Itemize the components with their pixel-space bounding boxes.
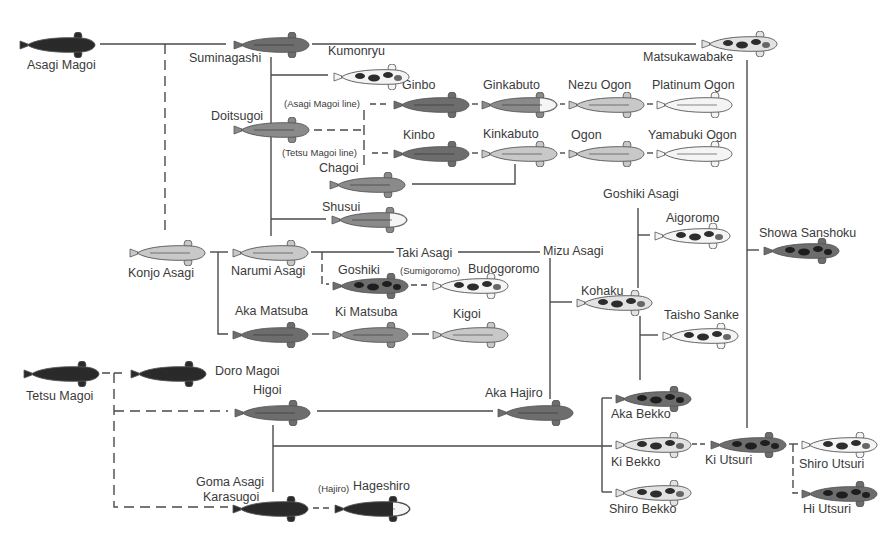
label-higoi: Higoi (253, 383, 282, 397)
doro-magoi-fish-icon (129, 361, 207, 387)
ki-utsuri-fish-icon (709, 432, 787, 458)
goma-asagi-karasugoi-fish-icon (231, 496, 309, 522)
label-kumonryu: Kumonryu (328, 44, 385, 58)
nezu-ogon-fish-icon (567, 92, 645, 118)
kigoi-fish-icon (431, 322, 509, 348)
chagoi-fish-icon (328, 172, 406, 198)
annotation-tetsu-magoi-line: (Tetsu Magoi line) (282, 146, 357, 160)
shiro-bekko-fish-icon (614, 480, 692, 506)
edge-chagoi-kinkabuto (412, 164, 515, 184)
suminagashi-fish-icon (232, 32, 310, 58)
kinbo-fish-icon (392, 141, 470, 167)
koi-lineage-diagram: (Asagi Magoi line) (Tetsu Magoi line) As… (0, 0, 895, 539)
aka-bekko-fish-icon (614, 386, 692, 412)
label-tetsu-magoi: Tetsu Magoi (26, 389, 93, 403)
label-kinbo: Kinbo (403, 128, 435, 142)
label-taisho-sanke: Taisho Sanke (664, 308, 739, 322)
label-konjo-asagi: Konjo Asagi (128, 266, 194, 280)
label-goma-asagi: Goma Asagi (196, 475, 264, 489)
ogon-fish-icon (567, 141, 645, 167)
narumi-asagi-fish-icon (231, 240, 309, 266)
taisho-sanke-fish-icon (661, 323, 739, 349)
label-shiro-utsuri: Shiro Utsuri (799, 457, 864, 471)
label-kigoi: Kigoi (453, 307, 481, 321)
edge-konjo-aka-matsuba (218, 252, 228, 334)
doitsugoi-fish-icon (232, 117, 310, 143)
kohaku-fish-icon (575, 290, 653, 316)
hi-utsuri-fish-icon (800, 481, 878, 507)
showa-sanshoku-fish-icon (762, 238, 840, 264)
shusui-fish-icon (330, 207, 408, 233)
yamabuki-ogon-fish-icon (655, 141, 733, 167)
label-kinkabuto: Kinkabuto (483, 127, 539, 141)
edge-narumi-goshiki (322, 252, 329, 284)
label-hageshiro: Hageshiro (353, 479, 410, 493)
label-aka-matsuba: Aka Matsuba (235, 304, 308, 318)
goshiki-fish-icon (331, 273, 409, 299)
label-goshiki-asagi: Goshiki Asagi (603, 187, 679, 201)
label-doro-magoi: Doro Magoi (215, 364, 280, 378)
ginbo-fish-icon (392, 92, 470, 118)
ki-bekko-fish-icon (614, 432, 692, 458)
label-hajiro-prefix: (Hajiro) (318, 482, 349, 496)
kumonryu-fish-icon (332, 64, 410, 90)
edge-kiutsuri-hi (793, 444, 798, 493)
kinkabuto-fish-icon (480, 141, 558, 167)
ki-matsuba-fish-icon (331, 322, 409, 348)
label-platinum-ogon: Platinum Ogon (652, 78, 735, 92)
label-yamabuki-ogon: Yamabuki Ogon (648, 128, 737, 142)
konjo-asagi-fish-icon (128, 240, 206, 266)
label-ogon: Ogon (571, 128, 602, 142)
tetsu-magoi-fish-icon (22, 361, 100, 387)
label-nezu-ogon: Nezu Ogon (568, 78, 631, 92)
label-asagi-magoi: Asagi Magoi (27, 58, 96, 72)
aka-matsuba-fish-icon (231, 322, 309, 348)
label-aka-hajiro: Aka Hajiro (485, 386, 543, 400)
hageshiro-fish-icon (333, 496, 411, 522)
label-taki-asagi: Taki Asagi (396, 246, 452, 260)
ginkabuto-fish-icon (480, 92, 558, 118)
label-ginkabuto: Ginkabuto (483, 78, 540, 92)
platinum-ogon-fish-icon (655, 92, 733, 118)
label-narumi-asagi: Narumi Asagi (231, 264, 305, 278)
shiro-utsuri-fish-icon (800, 432, 878, 458)
label-mizu-asagi: Mizu Asagi (543, 244, 603, 258)
budogoromo-fish-icon (431, 273, 509, 299)
label-ki-matsuba: Ki Matsuba (335, 305, 398, 319)
higoi-fish-icon (233, 400, 311, 426)
annotation-asagi-magoi-line: (Asagi Magoi line) (284, 97, 360, 111)
aigoromo-fish-icon (653, 223, 731, 249)
asagi-magoi-fish-icon (18, 32, 96, 58)
aka-hajiro-fish-icon (496, 400, 574, 426)
matsukawabake-fish-icon (700, 31, 778, 57)
